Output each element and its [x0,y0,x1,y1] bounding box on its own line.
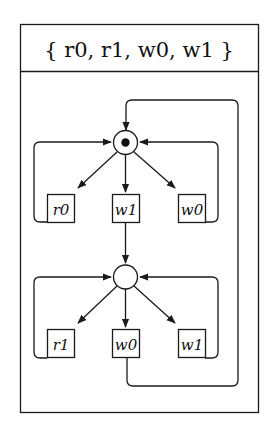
transition-label: w0 [181,201,204,219]
diagram-title: { r0, r1, w0, w1 } [44,38,234,62]
arc-top-place-to-w0 [134,152,175,188]
transition-w0-bottom: w0 [113,330,140,358]
token-dot [121,138,129,146]
transition-label: r1 [53,336,70,354]
transition-label: w1 [115,201,137,219]
transition-r1-bottom: r1 [48,330,75,358]
place-bottom [114,265,138,289]
transition-label: w0 [115,336,138,354]
transition-r0-top: r0 [48,195,75,223]
petri-net-diagram: { r0, r1, w0, w1 } r0 w1 w0 [0,0,276,424]
transition-w1-bottom: w1 [179,330,206,358]
transition-label: r0 [53,201,70,219]
transition-w1-top: w1 [113,195,140,223]
arc-bottom-place-to-r1 [78,286,117,323]
arc-top-place-to-r0 [78,152,117,188]
transition-w0-top: w0 [179,195,206,223]
transition-label: w1 [181,336,203,354]
arc-bottom-place-to-w1 [134,286,175,323]
